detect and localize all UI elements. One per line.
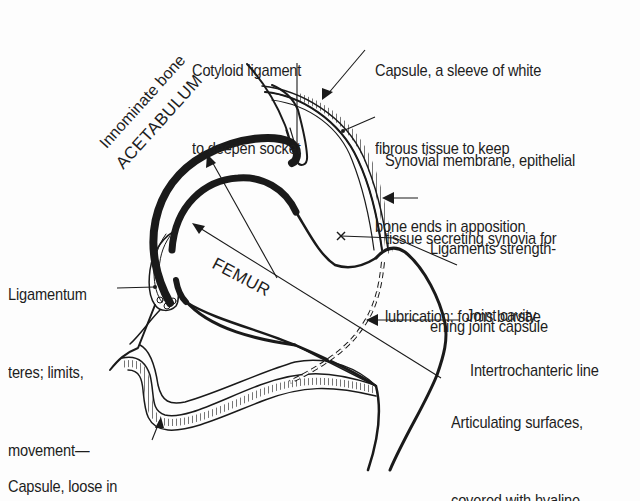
teres-dot-icon [153, 285, 157, 289]
label-line: covered with hyaline [451, 488, 583, 501]
label-line: Cotyloid ligament [192, 58, 301, 84]
label-line: Synovial membrane, epithelial [385, 148, 575, 174]
label-line: Articulating surfaces, [451, 410, 583, 436]
label-line: Ligamentum [8, 282, 94, 308]
label-line: to deepen socket [192, 136, 301, 162]
capsule-loose-label: Capsule, loose in adduction to allow for… [8, 422, 122, 501]
label-line: Capsule, a sleeve of white [375, 58, 541, 84]
label-line: Capsule, loose in [8, 474, 122, 500]
synovial-dot-icon [341, 129, 345, 133]
intertrochanteric-arrow-icon [366, 314, 378, 326]
articulating-arrow-lower-icon [192, 223, 205, 234]
femur-head-cartilage [172, 178, 376, 345]
cotyloid-ligament-label: Cotyloid ligament to deepen socket [192, 6, 301, 188]
joint-capsule-lower [122, 345, 376, 430]
articulating-surfaces-label: Articulating surfaces, covered with hyal… [451, 358, 583, 501]
label-line: teres; limits, [8, 360, 94, 386]
